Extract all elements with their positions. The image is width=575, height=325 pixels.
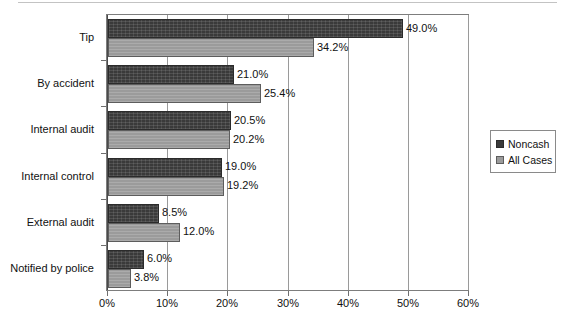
- legend-label-all-cases: All Cases: [508, 155, 552, 166]
- value-label: 21.0%: [237, 68, 268, 80]
- y-tickmark: [101, 245, 106, 246]
- y-tickmark: [101, 199, 106, 200]
- value-label: 19.2%: [227, 179, 258, 191]
- x-tickmark-50: [408, 291, 409, 296]
- bar-noncash: [108, 204, 159, 223]
- value-label: 3.8%: [134, 271, 159, 283]
- plot-area: [106, 14, 469, 291]
- category-label-internal-control: Internal control: [21, 170, 94, 182]
- bar-all-cases: [108, 84, 261, 103]
- x-tick-label: 20%: [207, 297, 247, 309]
- bar-all-cases: [108, 38, 314, 57]
- value-label: 49.0%: [406, 22, 437, 34]
- value-label: 20.2%: [233, 133, 264, 145]
- chart-figure: TipBy accidentInternal auditInternal con…: [0, 0, 575, 325]
- value-label: 34.2%: [317, 41, 348, 53]
- category-label-external-audit: External audit: [27, 216, 94, 228]
- bar-all-cases: [108, 223, 180, 242]
- gridline-40: [348, 15, 349, 290]
- value-label: 20.5%: [234, 114, 265, 126]
- legend-item-noncash: Noncash: [496, 136, 551, 152]
- bar-noncash: [108, 158, 222, 177]
- category-label-notified-by-police: Notified by police: [10, 262, 94, 274]
- legend-swatch-noncash: [496, 140, 504, 148]
- x-tick-label: 60%: [448, 297, 488, 309]
- legend-label-noncash: Noncash: [508, 139, 549, 150]
- x-tickmark-30: [288, 291, 289, 296]
- gridline-50: [408, 15, 409, 290]
- bar-all-cases: [108, 130, 230, 149]
- x-tick-label: 50%: [388, 297, 428, 309]
- bar-noncash: [108, 250, 144, 269]
- category-label-by-accident: By accident: [37, 77, 94, 89]
- legend-item-all-cases: All Cases: [496, 152, 551, 168]
- x-tickmark-10: [167, 291, 168, 296]
- x-tick-label: 10%: [147, 297, 187, 309]
- x-tick-label: 40%: [328, 297, 368, 309]
- value-label: 12.0%: [183, 225, 214, 237]
- bar-all-cases: [108, 269, 131, 288]
- x-tickmark-20: [227, 291, 228, 296]
- value-label: 25.4%: [264, 87, 295, 99]
- bar-noncash: [108, 111, 231, 130]
- x-tick-label: 30%: [268, 297, 308, 309]
- scan-edge-artifact: [18, 2, 557, 3]
- x-tickmark-40: [348, 291, 349, 296]
- category-label-tip: Tip: [79, 31, 94, 43]
- legend-swatch-all-cases: [496, 156, 504, 164]
- value-label: 8.5%: [162, 206, 187, 218]
- y-tickmark: [101, 153, 106, 154]
- bar-all-cases: [108, 177, 224, 196]
- value-label: 6.0%: [147, 252, 172, 264]
- gridline-60: [468, 15, 469, 290]
- x-tickmark-60: [468, 291, 469, 296]
- x-tickmark-0: [107, 291, 108, 296]
- chart-legend: Noncash All Cases: [490, 130, 556, 173]
- y-tickmark: [101, 60, 106, 61]
- bar-noncash: [108, 19, 403, 38]
- x-tick-label: 0%: [87, 297, 127, 309]
- category-label-internal-audit: Internal audit: [30, 123, 94, 135]
- value-label: 19.0%: [225, 160, 256, 172]
- bar-noncash: [108, 65, 234, 84]
- y-tickmark: [101, 106, 106, 107]
